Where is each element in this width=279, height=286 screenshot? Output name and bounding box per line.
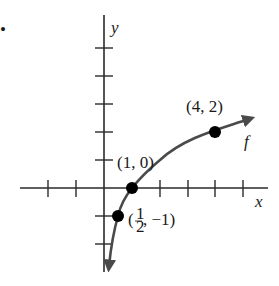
point-half-neg1-label: ( 1 2 , −1) [128, 204, 175, 236]
function-graph: • y x f (1, 0) (4, 2) ( 1 2 , −1) [0, 0, 279, 286]
point-4-2-label: (4, 2) [186, 97, 223, 116]
svg-text:, −1): , −1) [143, 210, 175, 229]
point-4-2 [209, 126, 221, 138]
point-1-0 [126, 182, 138, 194]
function-label: f [244, 132, 251, 151]
y-axis-label: y [109, 18, 119, 37]
x-axis-label: x [254, 192, 263, 211]
point-half-neg1 [112, 210, 124, 222]
point-1-0-label: (1, 0) [117, 153, 154, 172]
bullet-marker: • [0, 20, 6, 39]
svg-text:(: ( [128, 210, 134, 229]
